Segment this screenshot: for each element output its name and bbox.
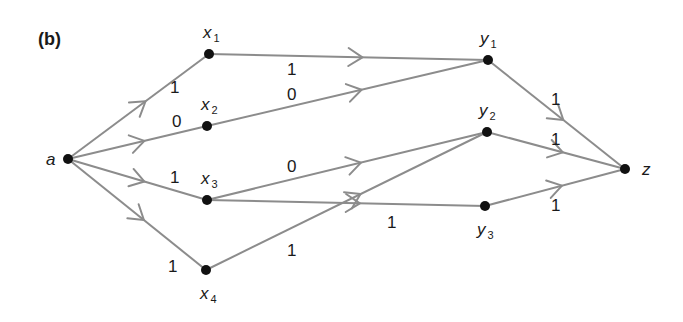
edge-x2-y1: 0 bbox=[207, 60, 488, 126]
edge-weight: 0 bbox=[172, 112, 181, 131]
edge-weight: 1 bbox=[168, 257, 177, 276]
network-flow-diagram: 101110011111 (b) ax1x2x3x4y1y2y3z bbox=[0, 0, 683, 322]
edge-line bbox=[207, 60, 488, 126]
edge-y2-z: 1 bbox=[487, 130, 625, 169]
node-label-x4: x4 bbox=[199, 284, 217, 305]
node-label-z: z bbox=[641, 160, 651, 179]
edge-weight: 1 bbox=[551, 196, 560, 215]
edge-weight: 0 bbox=[287, 85, 296, 104]
edge-weight: 1 bbox=[551, 130, 560, 149]
node-x4 bbox=[201, 265, 211, 275]
node-y1 bbox=[483, 55, 493, 65]
edge-line bbox=[68, 159, 206, 270]
node-z bbox=[620, 164, 630, 174]
node-label-y3: y3 bbox=[476, 220, 494, 241]
edge-y3-z: 1 bbox=[485, 169, 625, 215]
edge-x3-y2: 0 bbox=[207, 132, 487, 200]
node-label-x1: x1 bbox=[202, 23, 220, 44]
edge-y1-z: 1 bbox=[488, 60, 625, 169]
edge-a-x3: 1 bbox=[68, 159, 207, 200]
edges-layer: 101110011111 bbox=[68, 48, 625, 276]
edge-line bbox=[488, 60, 625, 169]
labels-layer: (b) ax1x2x3x4y1y2y3z bbox=[38, 23, 651, 305]
edge-line bbox=[207, 132, 487, 200]
diagram-canvas: 101110011111 (b) ax1x2x3x4y1y2y3z bbox=[0, 0, 683, 322]
edge-line bbox=[68, 159, 207, 200]
edge-a-x2: 0 bbox=[68, 112, 207, 159]
node-label-x3: x3 bbox=[200, 169, 218, 190]
edge-line bbox=[209, 54, 488, 60]
edge-x3-y3: 1 bbox=[207, 194, 485, 232]
edge-weight: 1 bbox=[287, 241, 296, 260]
node-y3 bbox=[480, 201, 490, 211]
figure-label: (b) bbox=[38, 29, 61, 49]
edge-weight: 1 bbox=[551, 90, 560, 109]
node-label-y1: y1 bbox=[479, 29, 497, 50]
node-x3 bbox=[202, 195, 212, 205]
edge-weight: 1 bbox=[387, 213, 396, 232]
node-x1 bbox=[204, 49, 214, 59]
node-a bbox=[63, 154, 73, 164]
edge-a-x4: 1 bbox=[68, 159, 206, 276]
edge-weight: 1 bbox=[287, 60, 296, 79]
edge-weight: 1 bbox=[170, 78, 179, 97]
node-label-x2: x2 bbox=[200, 95, 218, 116]
node-label-a: a bbox=[46, 150, 55, 169]
edge-weight: 0 bbox=[287, 157, 296, 176]
node-label-y2: y2 bbox=[478, 101, 496, 122]
edge-weight: 1 bbox=[170, 168, 179, 187]
edge-x1-y1: 1 bbox=[209, 48, 488, 79]
nodes-layer bbox=[63, 49, 630, 275]
node-y2 bbox=[482, 127, 492, 137]
node-x2 bbox=[202, 121, 212, 131]
